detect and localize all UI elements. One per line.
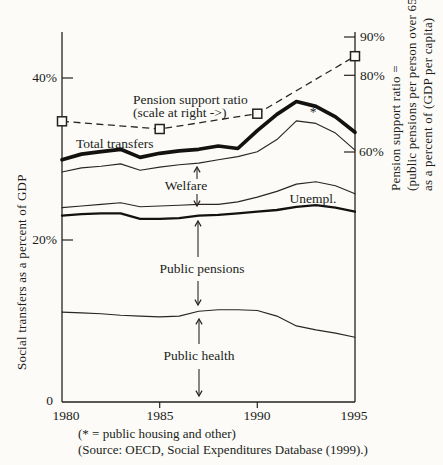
unemployment-label: Unempl.	[290, 191, 337, 206]
asterisk-annotation: *	[310, 104, 317, 119]
public-health-label: Public health	[164, 348, 235, 363]
asterisk-footnote: (* = public housing and other)	[78, 426, 236, 441]
right-tick-60: 60%	[359, 144, 384, 159]
left-tick-20: 20%	[32, 232, 57, 247]
pension-ratio-marker	[155, 125, 164, 134]
right-axis-title-line3: as a percent of (GDP per capita)	[420, 18, 435, 191]
left-axis-title: Social transfers as a percent of GDP	[14, 174, 29, 370]
pension-ratio-label-line2: (scale at right ->)	[133, 105, 226, 120]
pension-ratio-marker	[351, 52, 360, 61]
x-tick-1985: 1985	[147, 408, 174, 423]
x-tick-1990: 1990	[244, 408, 271, 423]
left-tick-40: 40%	[32, 70, 57, 85]
x-tick-1995: 1995	[341, 408, 368, 423]
public-pensions-label: Public pensions	[159, 261, 244, 276]
series-public-pensions-line	[62, 205, 355, 219]
welfare-label: Welfare	[165, 178, 207, 193]
pension-ratio-marker	[253, 109, 262, 118]
right-axis-title-line2: (public pensions per person over 65)	[404, 0, 419, 191]
x-tick-1980: 1980	[53, 408, 80, 423]
right-tick-80: 80%	[360, 68, 385, 83]
source-note: (Source: OECD, Social Expenditures Datab…	[78, 442, 368, 457]
series-public-health-line	[62, 310, 355, 338]
figure: 40% 20% 0 90% 80% 60% 1980 1985 1990 199…	[0, 0, 443, 465]
chart-svg: 40% 20% 0 90% 80% 60% 1980 1985 1990 199…	[0, 0, 443, 465]
right-tick-90: 90%	[360, 29, 385, 44]
total-transfers-label: Total transfers	[76, 136, 153, 151]
right-axis-title-line1: Pension support ratio =	[388, 65, 403, 191]
pension-ratio-marker	[58, 117, 67, 126]
left-tick-0: 0	[46, 393, 53, 408]
